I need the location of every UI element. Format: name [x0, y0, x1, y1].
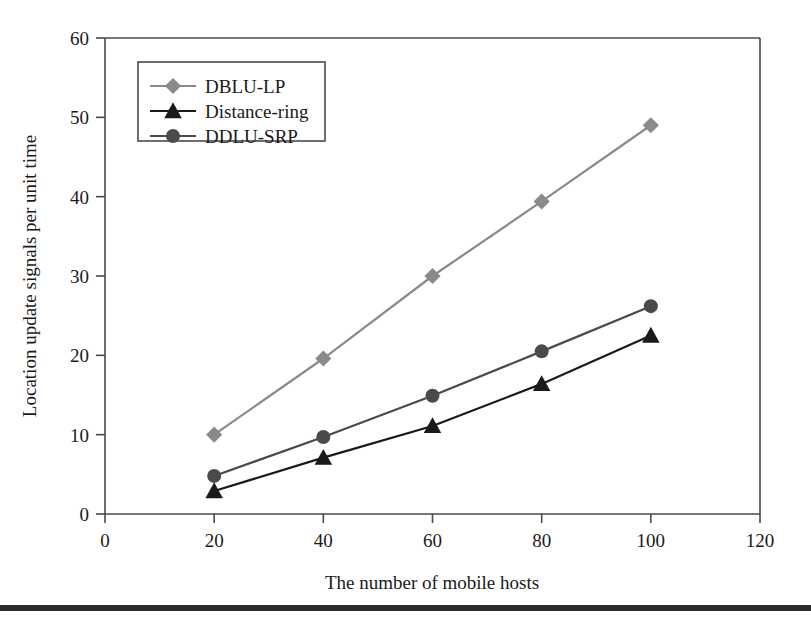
y-tick-label: 10 — [70, 425, 89, 446]
series-ddlu-srp — [207, 299, 658, 483]
y-tick-label: 50 — [70, 107, 89, 128]
x-tick-label: 60 — [423, 530, 442, 551]
data-point-diamond — [206, 427, 222, 443]
x-tick-label: 20 — [205, 530, 224, 551]
data-point-circle — [644, 299, 658, 313]
legend-label: DDLU-SRP — [205, 126, 298, 147]
data-point-diamond — [643, 117, 659, 133]
legend-item-ddlu-srp[interactable]: DDLU-SRP — [150, 126, 298, 147]
x-axis-ticks — [105, 514, 760, 523]
x-axis-tick-labels: 020406080100120 — [100, 530, 774, 551]
series-line — [214, 336, 651, 491]
y-tick-label: 40 — [70, 187, 89, 208]
x-axis-title: The number of mobile hosts — [325, 572, 539, 593]
data-point-circle — [207, 469, 221, 483]
data-point-circle — [316, 430, 330, 444]
x-tick-label: 0 — [100, 530, 110, 551]
chart-legend: DBLU-LPDistance-ringDDLU-SRP — [138, 62, 325, 147]
x-tick-label: 40 — [314, 530, 333, 551]
legend-entries: DBLU-LPDistance-ringDDLU-SRP — [150, 76, 309, 147]
data-point-triangle — [642, 327, 660, 343]
y-axis-ticks — [96, 38, 105, 514]
y-tick-label: 0 — [80, 504, 90, 525]
data-series-layer — [205, 117, 659, 498]
data-point-diamond — [534, 193, 550, 209]
x-tick-label: 80 — [532, 530, 551, 551]
y-axis-tick-labels: 0102030405060 — [70, 28, 89, 525]
legend-label: Distance-ring — [205, 101, 309, 122]
page-bottom-rule — [0, 605, 811, 611]
line-chart: 0102030405060 020406080100120 The number… — [0, 0, 811, 621]
y-tick-label: 20 — [70, 345, 89, 366]
data-point-triangle — [533, 375, 551, 391]
data-point-circle — [535, 344, 549, 358]
y-tick-label: 30 — [70, 266, 89, 287]
data-point-circle — [426, 389, 440, 403]
data-point-triangle — [424, 417, 442, 433]
legend-label: DBLU-LP — [205, 76, 285, 97]
figure-page: 0102030405060 020406080100120 The number… — [0, 0, 811, 621]
y-tick-label: 60 — [70, 28, 89, 49]
legend-marker-circle — [166, 129, 180, 143]
series-distance-ring — [205, 327, 659, 498]
x-tick-label: 120 — [746, 530, 775, 551]
y-axis-title: Location update signals per unit time — [19, 135, 40, 417]
x-tick-label: 100 — [637, 530, 666, 551]
